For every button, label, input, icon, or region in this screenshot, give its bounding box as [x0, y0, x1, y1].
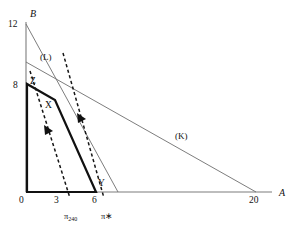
iso-profit-labels: π240 π∗: [64, 211, 113, 222]
lp-diagram-svg: B A (L) (K) 12 8 0 3 6 20: [0, 0, 299, 237]
constraint-line-K: [26, 62, 256, 192]
iso-profit-line-pistar: [63, 53, 104, 198]
vertex-label-X: X: [45, 100, 52, 110]
iso-profit-arrow-pistar: [77, 113, 86, 123]
lp-diagram-figure: B A (L) (K) 12 8 0 3 6 20: [0, 0, 299, 237]
iso-profit-arrow-pi240: [44, 125, 53, 135]
origin-label: 0: [19, 195, 24, 205]
iso-profit-label-pi240-subscript: 240: [68, 216, 77, 222]
constraint-line-L: [26, 24, 118, 192]
iso-profit-line-pi240: [30, 71, 70, 198]
constraint-label-K: (K): [175, 131, 188, 141]
vertex-label-Z: Z: [30, 76, 36, 86]
iso-profit-line-pi240-group: [30, 71, 70, 198]
vertex-label-Y: Y: [98, 178, 105, 188]
x-tick-group: 0 3 6 20: [19, 195, 259, 205]
y-tick-label-12: 12: [8, 19, 18, 29]
iso-profit-label-pistar-symbol: π∗: [101, 211, 113, 221]
y-axis-label: B: [30, 8, 36, 19]
iso-profit-label-pi240: π240: [64, 211, 77, 222]
axes-group: [26, 22, 272, 192]
iso-profit-label-pistar: π∗: [101, 211, 113, 221]
x-tick-label-3: 3: [54, 195, 59, 205]
feasible-region-frontier: [27, 84, 96, 192]
x-axis-label: A: [278, 187, 286, 198]
y-tick-group: 12 8: [8, 19, 18, 90]
iso-profit-line-pistar-group: [63, 53, 104, 198]
y-tick-label-8: 8: [13, 80, 18, 90]
x-tick-label-20: 20: [249, 195, 259, 205]
constraint-label-L: (L): [40, 52, 52, 62]
x-tick-label-6: 6: [92, 195, 97, 205]
